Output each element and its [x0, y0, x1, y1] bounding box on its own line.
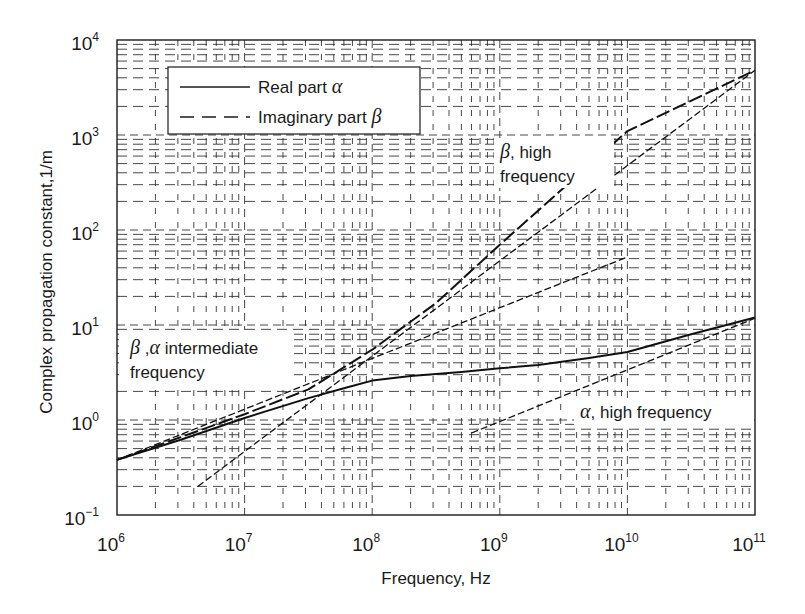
- x-tick-label: 106: [97, 531, 125, 555]
- y-tick-label: 101: [71, 315, 99, 339]
- y-tick-label: 104: [71, 30, 99, 54]
- legend-entry-imaginary: Imaginary part β: [258, 105, 381, 128]
- y-tick-label: 103: [71, 125, 99, 149]
- x-tick-label: 1011: [732, 531, 766, 555]
- x-axis-title: Frequency, Hz: [381, 569, 490, 588]
- annotation-intermediate-frequency: β ,α intermediate frequency: [119, 330, 294, 386]
- y-tick-label: 102: [71, 220, 99, 244]
- legend: Real part α Imaginary part β: [168, 67, 420, 134]
- annotation-alpha-high-frequency: α, high frequency: [574, 398, 752, 428]
- svg-text:α, high frequency: α, high frequency: [580, 400, 712, 422]
- x-axis-ticks: 10610710810910101011: [97, 531, 766, 555]
- propagation-constant-chart: 10610710810910101011 10−1100101102103104…: [0, 0, 805, 614]
- y-tick-label: 100: [71, 410, 99, 434]
- y-axis-title: Complex propagation constant,1/m: [37, 150, 56, 414]
- x-tick-label: 1010: [604, 531, 639, 555]
- svg-text:β, high: β, high: [499, 140, 552, 163]
- x-tick-label: 108: [352, 531, 380, 555]
- annotation-beta-high-frequency: β, high frequency: [494, 138, 614, 188]
- x-tick-label: 107: [225, 531, 253, 555]
- legend-entry-real: Real part α: [258, 75, 343, 97]
- y-tick-label: 10−1: [64, 505, 99, 529]
- x-tick-label: 109: [480, 531, 508, 555]
- svg-text:frequency: frequency: [500, 167, 575, 186]
- svg-text:β ,α intermediate: β ,α intermediate: [129, 336, 258, 359]
- y-axis-ticks: 10−1100101102103104: [64, 30, 99, 529]
- svg-text:frequency: frequency: [130, 363, 205, 382]
